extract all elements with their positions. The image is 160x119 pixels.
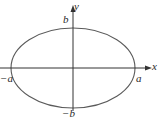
positive-minor-vertex-label: b [63, 14, 69, 25]
ellipse-diagram: y b x a −a −b [0, 0, 160, 119]
x-axis-arrow-icon [145, 66, 152, 71]
negative-major-vertex-label: −a [0, 73, 13, 84]
ellipse-figure [0, 0, 160, 119]
x-axis-label: x [152, 61, 157, 72]
negative-minor-vertex-label: −b [62, 108, 75, 119]
y-axis-label: y [74, 1, 79, 12]
positive-major-vertex-label: a [136, 73, 142, 84]
